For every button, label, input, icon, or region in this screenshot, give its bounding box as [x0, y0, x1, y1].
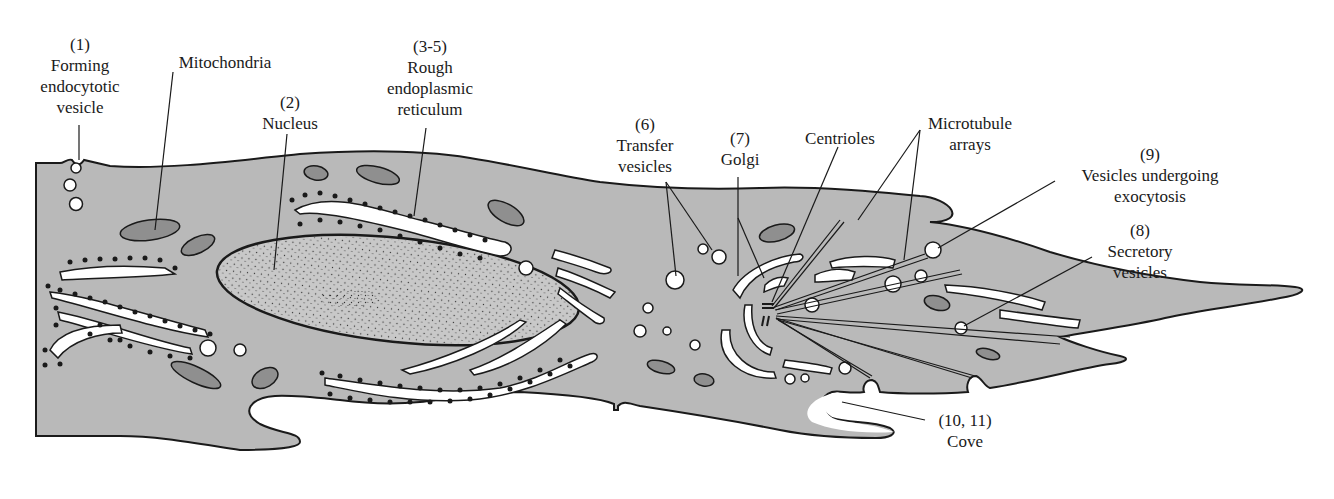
- cell-diagram: (1) Forming endocytotic vesicle Mitochon…: [0, 0, 1334, 499]
- label-golgi: (7) Golgi: [710, 128, 770, 170]
- label-vesicles-undergoing-exocytosis: (9) Vesicles undergoing exocytosis: [1055, 144, 1245, 207]
- label-mitochondria: Mitochondria: [160, 52, 290, 73]
- label-cove: (10, 11) Cove: [925, 410, 1005, 452]
- label-nucleus: (2) Nucleus: [250, 92, 330, 134]
- label-microtubule-arrays: Microtubule arrays: [915, 113, 1025, 155]
- label-transfer-vesicles: (6) Transfer vesicles: [600, 114, 690, 177]
- label-centrioles: Centrioles: [790, 128, 890, 149]
- label-rough-er: (3-5) Rough endoplasmic reticulum: [370, 36, 490, 120]
- label-secretory-vesicles: (8) Secretory vesicles: [1090, 220, 1190, 283]
- label-forming-endocytotic-vesicle: (1) Forming endocytotic vesicle: [30, 34, 130, 118]
